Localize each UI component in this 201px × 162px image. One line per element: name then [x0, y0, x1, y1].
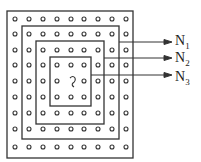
grid-circle — [27, 145, 31, 149]
grid-circle — [96, 79, 100, 83]
grid-circle — [82, 111, 86, 115]
grid-circle — [41, 48, 45, 52]
grid-circle — [55, 17, 59, 21]
grid-circle — [27, 79, 31, 83]
grid-circle — [110, 48, 114, 52]
label-n2: N2 — [175, 51, 190, 68]
grid-circle — [124, 127, 128, 131]
grid-circle — [69, 145, 73, 149]
grid-circle — [82, 127, 86, 131]
grid-circle — [69, 127, 73, 131]
grid-circle — [13, 79, 17, 83]
grid-circle — [82, 17, 86, 21]
grid-circle — [27, 127, 31, 131]
grid-circle — [124, 48, 128, 52]
grid-circle — [110, 17, 114, 21]
arrowhead-n2 — [164, 56, 172, 61]
grid-circle — [82, 79, 86, 83]
grid-circle — [69, 32, 73, 36]
grid-circle — [41, 17, 45, 21]
label-n3: N3 — [175, 70, 190, 87]
grid-circle — [110, 145, 114, 149]
grid-circle — [27, 32, 31, 36]
grid-circle — [110, 111, 114, 115]
circle-grid — [13, 17, 128, 149]
grid-circle — [96, 17, 100, 21]
grid-circle — [13, 63, 17, 67]
grid-circle — [55, 111, 59, 115]
grid-circle — [69, 63, 73, 67]
grid-circle — [82, 95, 86, 99]
grid-circle — [13, 111, 17, 115]
grid-circle — [55, 79, 59, 83]
grid-circle — [27, 111, 31, 115]
grid-circle — [41, 32, 45, 36]
grid-circle — [82, 145, 86, 149]
grid-circle — [96, 32, 100, 36]
grid-circle — [110, 79, 114, 83]
grid-circle — [69, 95, 73, 99]
grid-circle — [41, 95, 45, 99]
label-n1: N1 — [175, 34, 190, 51]
grid-circle — [124, 63, 128, 67]
grid-circle — [69, 48, 73, 52]
grid-circle — [13, 48, 17, 52]
grid-circle — [41, 79, 45, 83]
grid-circle — [69, 111, 73, 115]
grid-circle — [69, 17, 73, 21]
grid-circle — [55, 32, 59, 36]
grid-circle — [110, 127, 114, 131]
grid-circle — [27, 48, 31, 52]
grid-circle — [96, 95, 100, 99]
grid-circle — [124, 111, 128, 115]
arrowhead-n1 — [164, 40, 172, 45]
grid-circle — [13, 32, 17, 36]
grid-circle — [96, 145, 100, 149]
grid-circle — [41, 127, 45, 131]
grid-circle — [82, 48, 86, 52]
center-symbol-icon — [70, 77, 75, 88]
grid-circle — [110, 95, 114, 99]
grid-circle — [55, 95, 59, 99]
grid-circle — [110, 32, 114, 36]
grid-circle — [124, 79, 128, 83]
grid-circle — [55, 48, 59, 52]
grid-circle — [41, 145, 45, 149]
grid-circle — [27, 17, 31, 21]
grid-circle — [55, 63, 59, 67]
grid-circle — [110, 63, 114, 67]
grid-circle — [27, 63, 31, 67]
grid-circle — [41, 63, 45, 67]
arrowhead-n3 — [164, 73, 172, 78]
grid-circle — [96, 63, 100, 67]
grid-circle — [96, 111, 100, 115]
grid-circle — [124, 17, 128, 21]
grid-circle — [13, 145, 17, 149]
grid-circle — [13, 17, 17, 21]
grid-circle — [96, 127, 100, 131]
grid-circle — [124, 95, 128, 99]
grid-circle — [82, 32, 86, 36]
grid-circle — [124, 32, 128, 36]
nested-loops-diagram — [0, 0, 201, 162]
grid-circle — [55, 127, 59, 131]
grid-circle — [124, 145, 128, 149]
grid-circle — [96, 48, 100, 52]
grid-circle — [27, 95, 31, 99]
grid-circle — [13, 95, 17, 99]
grid-circle — [41, 111, 45, 115]
grid-circle — [55, 145, 59, 149]
grid-circle — [82, 63, 86, 67]
grid-circle — [13, 127, 17, 131]
